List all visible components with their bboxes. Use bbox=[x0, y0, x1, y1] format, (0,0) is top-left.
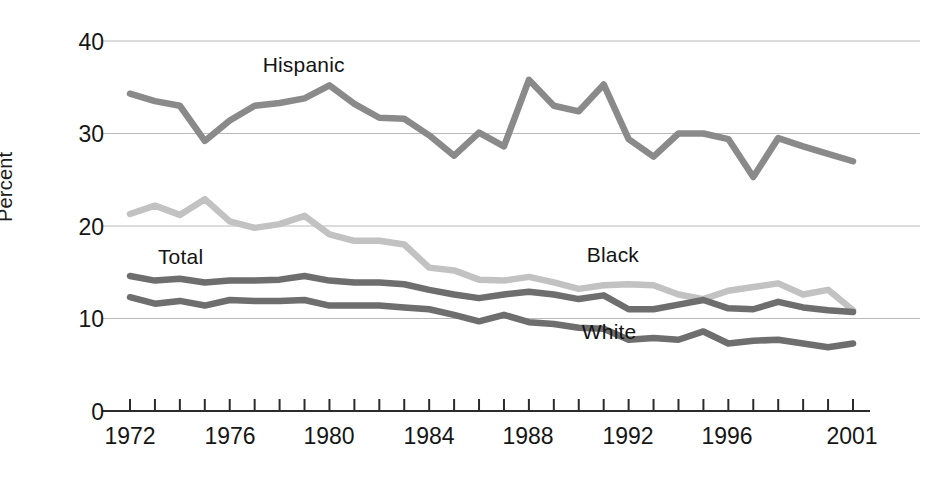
series-label-hispanic: Hispanic bbox=[263, 53, 345, 77]
dropout-rate-line-chart: Percent 40 30 20 10 0 1972 1976 1980 198… bbox=[0, 0, 926, 484]
y-tick-label-40: 40 bbox=[58, 29, 104, 56]
y-tick-label-30: 30 bbox=[58, 121, 104, 148]
x-tick-label-1996: 1996 bbox=[687, 423, 767, 450]
y-tick-label-0: 0 bbox=[58, 399, 104, 426]
series-line-white bbox=[130, 297, 853, 347]
x-tick-label-1992: 1992 bbox=[588, 423, 668, 450]
chart-plot-area bbox=[0, 0, 926, 484]
y-axis-title: Percent bbox=[0, 152, 17, 222]
y-tick-label-20: 20 bbox=[58, 214, 104, 241]
x-tick-label-1984: 1984 bbox=[389, 423, 469, 450]
x-tick-label-1972: 1972 bbox=[90, 423, 170, 450]
series-label-total: Total bbox=[158, 245, 203, 269]
x-tick-label-2001: 2001 bbox=[812, 423, 892, 450]
series-label-white: White bbox=[582, 320, 637, 344]
series-line-hispanic bbox=[130, 80, 853, 177]
x-axis-ticks-group bbox=[130, 399, 853, 411]
y-tick-label-10: 10 bbox=[58, 306, 104, 333]
x-tick-label-1980: 1980 bbox=[289, 423, 369, 450]
series-label-black: Black bbox=[587, 243, 639, 267]
x-tick-label-1988: 1988 bbox=[488, 423, 568, 450]
series-lines-group bbox=[130, 80, 853, 347]
x-tick-label-1976: 1976 bbox=[190, 423, 270, 450]
